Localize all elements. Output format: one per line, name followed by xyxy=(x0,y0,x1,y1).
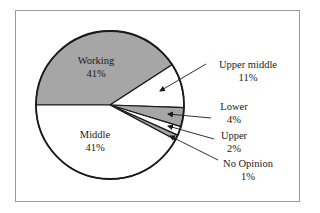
label-middle-name: Middle xyxy=(80,129,111,140)
label-no-opinion-name: No Opinion xyxy=(223,158,274,169)
label-working-value: 41% xyxy=(86,68,106,79)
label-lower-name: Lower xyxy=(220,101,248,112)
label-upper-middle-name: Upper middle xyxy=(219,59,277,70)
label-working-name: Working xyxy=(78,55,115,66)
label-no-opinion-value: 1% xyxy=(241,171,255,182)
label-lower-value: 4% xyxy=(227,114,241,125)
label-upper-middle-value: 11% xyxy=(239,72,258,83)
label-upper-value: 2% xyxy=(227,143,241,154)
arrow-no-opinion xyxy=(170,136,218,160)
label-upper-name: Upper xyxy=(221,130,248,141)
pie-chart: Working 41% Middle 41% Upper middle 11% … xyxy=(0,0,320,213)
label-middle-value: 41% xyxy=(85,142,105,153)
